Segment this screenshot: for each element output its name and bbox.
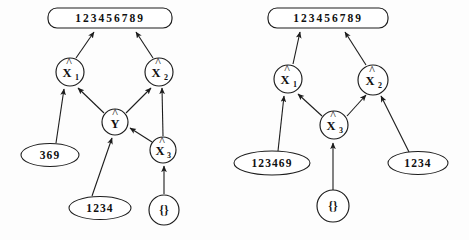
leaf-left-empty-label: {}: [159, 203, 169, 217]
right-inference-graph: 123456789 ^ X 1 ^ X 2 ^ X 3: [234, 8, 448, 222]
node-right-x3: ^ X 3: [320, 108, 348, 139]
node-right-x3-label: X: [326, 119, 335, 133]
node-left-x3-label: X: [155, 144, 164, 158]
node-left-x2-subscript: 2: [164, 73, 168, 82]
edge-x3-to-x2: [162, 88, 163, 136]
left-inference-graph: 123456789 ^ X 1 ^ X 2 ^ Y: [21, 8, 179, 225]
edge-y-to-x1: [78, 88, 104, 113]
leaf-right-123469: 123469: [234, 151, 310, 175]
edge-1234-to-r-x2: [381, 96, 409, 152]
node-left-x3: ^ X 3: [150, 134, 176, 163]
leaf-left-empty: {}: [149, 195, 179, 225]
diagram-canvas: 123456789 ^ X 1 ^ X 2 ^ Y: [0, 0, 469, 240]
node-left-x3-subscript: 3: [167, 151, 171, 160]
node-right-x1: ^ X 1: [274, 62, 302, 93]
output-box-left-label: 123456789: [75, 12, 145, 24]
leaf-right-1234: 1234: [388, 152, 448, 175]
edge-y-to-x2: [126, 88, 151, 113]
node-left-y-label: Y: [110, 117, 119, 131]
node-right-x1-label: X: [280, 73, 289, 87]
node-right-x2: ^ X 2: [358, 63, 388, 95]
edge-x3-to-y: [130, 128, 152, 142]
node-right-x2-label: X: [365, 74, 374, 88]
edge-369-to-x1: [56, 89, 64, 143]
edge-123469-to-r-x1: [278, 96, 284, 151]
figure-root: 123456789 ^ X 1 ^ X 2 ^ Y: [0, 0, 469, 240]
leaf-left-1234-label: 1234: [86, 202, 113, 214]
node-left-y: ^ Y: [102, 106, 128, 135]
node-right-x1-subscript: 1: [293, 80, 297, 89]
leaf-left-369: 369: [21, 144, 79, 167]
edge-r-x3-to-r-x1: [298, 94, 322, 116]
leaf-right-empty-label: {}: [328, 199, 338, 213]
edge-x2-to-output: [136, 32, 153, 58]
edge-1234-to-y: [92, 138, 112, 196]
node-left-x1-label: X: [62, 66, 71, 80]
output-box-right: 123456789: [268, 8, 388, 28]
edge-r-x2-to-output: [345, 32, 366, 65]
output-box-right-label: 123456789: [293, 12, 363, 24]
edge-r-x1-to-output: [293, 32, 300, 64]
node-left-x2-label: X: [151, 66, 160, 80]
node-right-x2-subscript: 2: [378, 81, 382, 90]
leaf-right-123469-label: 123469: [251, 157, 292, 169]
leaf-right-empty: {}: [317, 190, 349, 222]
edge-r-x3-to-r-x2: [347, 95, 366, 116]
output-box-left: 123456789: [48, 8, 172, 28]
node-right-x3-subscript: 3: [339, 126, 343, 135]
node-left-x2: ^ X 2: [145, 55, 173, 86]
leaf-left-1234: 1234: [69, 197, 131, 220]
leaf-left-369-label: 369: [40, 149, 61, 161]
node-left-x1: ^ X 1: [56, 55, 84, 86]
edge-x1-to-output: [76, 32, 94, 58]
leaf-right-1234-label: 1234: [404, 157, 431, 169]
node-left-x1-subscript: 1: [75, 73, 79, 82]
